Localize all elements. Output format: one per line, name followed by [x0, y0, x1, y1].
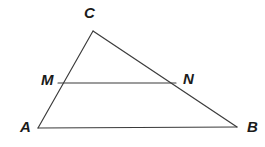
vertex-label-m: M [41, 72, 54, 87]
figure-canvas [0, 0, 265, 147]
segment-cb [93, 31, 237, 127]
vertex-label-a: A [20, 119, 31, 134]
segment-ab [38, 127, 237, 128]
vertex-label-b: B [247, 119, 258, 134]
vertex-label-n: N [183, 71, 194, 86]
geometry-figure: C M N A B [0, 0, 265, 147]
vertex-label-c: C [84, 5, 95, 20]
